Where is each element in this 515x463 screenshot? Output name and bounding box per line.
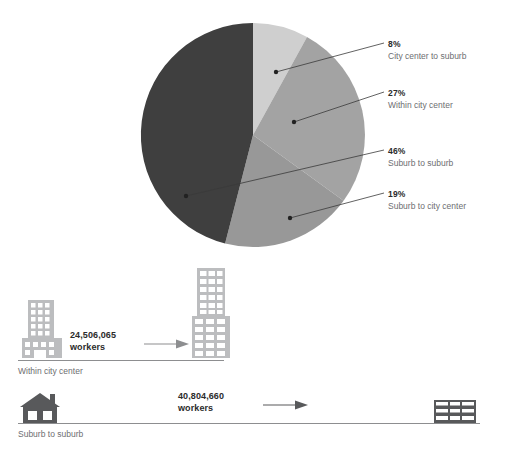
legend-percent: 46% <box>388 145 512 157</box>
office-building-icon <box>22 298 64 360</box>
house-icon <box>20 392 64 424</box>
legend-percent: 19% <box>388 188 512 200</box>
flow-figure-unit: workers <box>178 403 224 415</box>
legend-label: Suburb to city center <box>388 200 512 213</box>
legend-item-suburb-to-city-center[interactable]: 19% Suburb to city center <box>388 188 512 213</box>
flow-figure-number: 40,804,660 <box>178 391 224 403</box>
flow-figure-unit: workers <box>70 342 116 354</box>
flow-caption-suburb-to-suburb: Suburb to suburb <box>18 429 83 439</box>
legend-item-suburb-to-suburb[interactable]: 46% Suburb to suburb <box>388 145 512 170</box>
flow-baseline <box>18 360 224 361</box>
legend-label: City center to suburb <box>388 50 512 63</box>
arrow-right-icon <box>144 338 190 350</box>
leader-dot-city-center-to-suburb <box>274 70 278 74</box>
flow-figure-number: 24,506,065 <box>70 330 116 342</box>
pie-chart-section: 8% City center to suburb 27% Within city… <box>0 0 515 258</box>
flow-row-within-city-center: 24,506,065 workers Within city center <box>0 262 515 362</box>
legend-item-city-center-to-suburb[interactable]: 8% City center to suburb <box>388 38 512 63</box>
leader-dot-suburb-to-suburb <box>184 194 188 198</box>
leader-dot-suburb-to-city-center <box>288 216 292 220</box>
leader-dot-within-city-center <box>292 120 296 124</box>
arrow-right-icon <box>263 399 309 411</box>
flow-row-suburb-to-suburb: 40,804,660 workers Suburb to suburb <box>0 385 515 435</box>
legend-percent: 8% <box>388 38 512 50</box>
legend-item-within-city-center[interactable]: 27% Within city center <box>388 87 512 112</box>
flow-figure-suburb-to-suburb: 40,804,660 workers <box>178 391 224 414</box>
flow-baseline <box>18 423 480 424</box>
flow-caption-within-city-center: Within city center <box>18 366 83 376</box>
flow-figure-within-city-center: 24,506,065 workers <box>70 330 116 353</box>
low-rise-building-icon <box>434 400 476 424</box>
skyscraper-icon <box>190 266 234 360</box>
legend-percent: 27% <box>388 87 512 99</box>
legend-label: Suburb to suburb <box>388 157 512 170</box>
legend-label: Within city center <box>388 99 512 112</box>
